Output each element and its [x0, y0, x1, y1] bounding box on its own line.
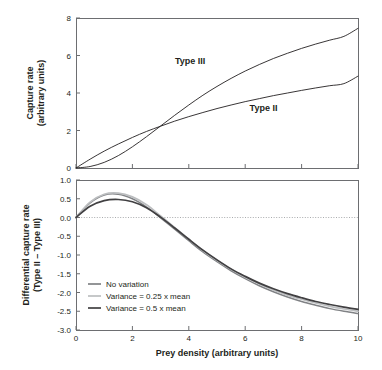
y-tick-label: -3.0	[57, 326, 71, 335]
y-tick-label: 8	[67, 14, 72, 23]
curve-type-iii	[76, 28, 358, 168]
y-axis-title-line: Differential capture rate	[21, 204, 31, 305]
y-tick-label: -1.5	[57, 270, 71, 279]
y-axis-title-line: (arbitrary units)	[36, 60, 46, 127]
y-tick-label: 0.5	[60, 195, 72, 204]
y-tick-label: 1.0	[60, 176, 72, 185]
y-tick-label: -1.0	[57, 251, 71, 260]
y-tick-label: -0.5	[57, 232, 71, 241]
legend-label: Variance = 0.5 x mean	[106, 304, 186, 313]
x-tick-label: 10	[354, 334, 363, 343]
x-tick-label: 6	[243, 334, 248, 343]
y-tick-label: -2.5	[57, 307, 71, 316]
y-axis-title: Differential capture rate(Type II – Type…	[21, 204, 42, 305]
x-tick-label: 0	[74, 334, 79, 343]
y-axis-title-line: Capture rate	[25, 66, 35, 119]
panel-top-panel: 02468Type IIIType IICapture rate(arbitra…	[25, 14, 359, 173]
y-axis-title-line: (Type II – Type III)	[32, 218, 42, 292]
figure-container: 02468Type IIIType IICapture rate(arbitra…	[0, 0, 382, 370]
curve-type-ii	[76, 76, 358, 168]
panel-bottom-panel: 02468101.00.50.0-0.5-1.0-1.5-2.0-2.5-3.0…	[21, 176, 363, 358]
x-tick-label: 2	[130, 334, 135, 343]
y-tick-label: -2.0	[57, 289, 71, 298]
y-tick-label: 6	[67, 52, 72, 61]
y-tick-label: 0	[67, 164, 72, 173]
y-tick-label: 4	[67, 89, 72, 98]
legend: No variationVariance = 0.25 x meanVarian…	[88, 280, 190, 313]
x-tick-label: 8	[299, 334, 304, 343]
scientific-figure: 02468Type IIIType IICapture rate(arbitra…	[0, 0, 382, 370]
annotation-type-ii: Type II	[250, 103, 278, 113]
y-tick-label: 0.0	[60, 214, 72, 223]
legend-label: No variation	[106, 280, 149, 289]
y-axis-title: Capture rate(arbitrary units)	[25, 60, 46, 127]
y-tick-label: 2	[67, 127, 72, 136]
x-tick-label: 4	[187, 334, 192, 343]
x-axis-title: Prey density (arbitrary units)	[156, 348, 279, 358]
plot-frame	[77, 19, 359, 169]
annotation-type-iii: Type III	[175, 56, 205, 66]
legend-label: Variance = 0.25 x mean	[106, 292, 190, 301]
